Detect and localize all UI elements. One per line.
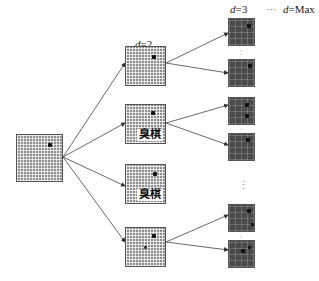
stone-icon [248,64,252,68]
stone-icon [247,209,251,213]
stone-icon [152,234,156,238]
root-board [16,134,63,182]
stone-icon [144,246,147,249]
bad-move-tag: 臭棋 [137,189,163,201]
board-d3-1 [228,18,255,46]
stone-icon [245,103,249,107]
bad-move-tag: 臭棋 [137,129,163,141]
board-d3-5 [228,204,255,232]
stone-icon [152,55,156,59]
depth-value: =3 [236,3,248,15]
depth-label-dmax: d=Max [283,3,315,15]
stone-icon [48,143,52,147]
depth-value: =Max [289,3,315,15]
stone-icon [151,111,155,115]
board-d3-3 [228,97,255,125]
board-d3-2 [228,59,255,87]
depth-label-d3: d=3 [230,3,247,15]
board-d3-6 [228,240,255,268]
stone-icon [153,172,157,176]
board-d2-1 [125,46,166,86]
stone-icon [248,246,251,249]
depth-ellipsis: ··· [266,3,277,15]
board-d2-2: 臭棋 [125,104,166,144]
stone-icon [245,114,249,118]
board-d2-3: 臭棋 [125,164,166,204]
stone-icon [251,223,254,226]
stone-icon [246,138,250,142]
board-d3-4 [228,133,255,161]
vertical-ellipsis: ⋮ [238,180,244,191]
stone-icon [247,24,251,28]
stone-icon [241,249,245,253]
vertical-dots: ·· [238,48,244,56]
board-d2-4 [125,227,166,267]
